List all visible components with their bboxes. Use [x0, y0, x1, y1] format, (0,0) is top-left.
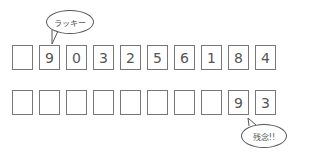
speech-bubble-lucky: ラッキー [46, 10, 94, 34]
speech-bubble-regret: 残念!! [241, 124, 287, 148]
